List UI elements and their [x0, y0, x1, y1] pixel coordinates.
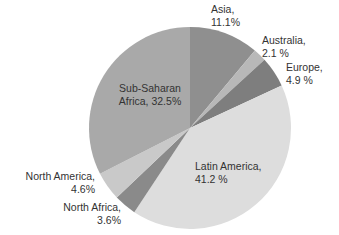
label-asia: Asia, 11.1% [211, 3, 240, 29]
pie-slices [89, 27, 291, 229]
label-latin-america-name: Latin America, [195, 160, 262, 173]
label-asia-name: Asia, [211, 3, 240, 16]
label-australia-value: 2.1 % [262, 47, 306, 60]
label-north-africa: North Africa, 3.6% [63, 201, 121, 227]
label-latin-america: Latin America, 41.2 % [195, 160, 262, 186]
label-north-america-value: 4.6% [26, 183, 95, 196]
label-europe: Europe, 4.9 % [286, 61, 323, 87]
label-north-africa-name: North Africa, [63, 201, 121, 214]
label-australia: Australia, 2.1 % [262, 34, 306, 60]
label-sub-saharan-africa-name: Sub-Saharan [106, 82, 194, 95]
label-north-america: North America, 4.6% [26, 170, 95, 196]
label-north-africa-value: 3.6% [63, 214, 121, 227]
label-latin-america-value: 41.2 % [195, 173, 262, 186]
label-europe-name: Europe, [286, 61, 323, 74]
label-asia-value: 11.1% [211, 16, 240, 29]
label-north-america-name: North America, [26, 170, 95, 183]
label-australia-name: Australia, [262, 34, 306, 47]
label-europe-value: 4.9 % [286, 74, 323, 87]
label-sub-saharan-africa: Sub-Saharan Africa, 32.5% [106, 82, 194, 108]
label-sub-saharan-africa-value: Africa, 32.5% [106, 95, 194, 108]
